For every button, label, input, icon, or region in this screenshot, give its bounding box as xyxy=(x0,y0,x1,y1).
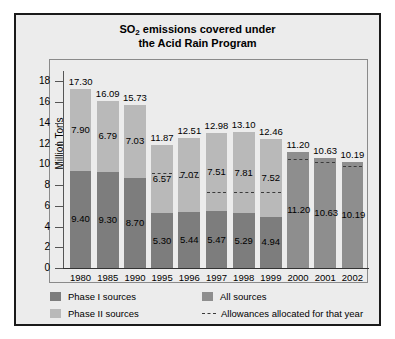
bar-total-label: 10.19 xyxy=(329,150,375,160)
y-axis-tick xyxy=(55,247,63,248)
bar-group[interactable]: 11.2011.20 xyxy=(287,71,309,268)
x-axis-tick-label: 1995 xyxy=(147,272,177,283)
bar-group[interactable]: 8.707.0315.73 xyxy=(124,71,146,268)
x-axis-tick-label: 1998 xyxy=(229,272,259,283)
bar-segment-value-label: 5.44 xyxy=(178,235,200,245)
y-axis-tick xyxy=(55,164,63,165)
bar-group[interactable]: 5.447.0712.51 xyxy=(178,71,200,268)
legend-label-phase-2-sources: Phase II sources xyxy=(68,308,139,319)
y-axis-tick-label: 18 xyxy=(20,76,50,86)
legend-swatch-all-sources xyxy=(202,292,213,301)
bar-segment-value-label: 9.40 xyxy=(70,214,92,224)
y-axis-tick xyxy=(55,185,63,186)
bar-group[interactable]: 9.407.9017.30 xyxy=(70,71,92,268)
legend-label-all-sources: All sources xyxy=(220,291,266,302)
bar-group[interactable]: 5.306.5711.87 xyxy=(151,71,173,268)
bar-segment-value-label: 9.30 xyxy=(97,215,119,225)
legend-item-phase-1-sources: Phase I sources xyxy=(50,291,136,302)
bar-segment-value-label: 7.52 xyxy=(260,173,282,183)
y-axis-tick xyxy=(55,227,63,228)
bar-segment-value-label: 10.63 xyxy=(314,208,336,218)
y-axis-tick-label: 10 xyxy=(20,159,50,169)
chart-title-subscript: 2 xyxy=(135,28,139,37)
bar-segment-value-label: 8.70 xyxy=(124,218,146,228)
x-axis-tick-label: 1996 xyxy=(174,272,204,283)
y-axis-tick-label: 12 xyxy=(20,139,50,149)
y-axis-tick xyxy=(55,206,63,207)
x-axis-tick-label: 1990 xyxy=(120,272,150,283)
x-axis-tick-label: 2000 xyxy=(283,272,313,283)
chart-title-line2: the Acid Rain Program xyxy=(138,37,256,49)
x-axis-tick-label: 1999 xyxy=(256,272,286,283)
bar-group[interactable]: 10.6310.63 xyxy=(314,71,336,268)
bar-segment-value-label: 6.79 xyxy=(97,131,119,141)
allowance-line xyxy=(261,192,281,193)
legend-item-all-sources: All sources xyxy=(202,291,266,302)
bar-segment-value-label: 5.30 xyxy=(151,236,173,246)
allowance-line xyxy=(343,166,363,167)
allowance-line xyxy=(234,192,254,193)
y-axis-tick xyxy=(55,123,63,124)
bar-group[interactable]: 5.477.5112.98 xyxy=(206,71,228,268)
x-axis-tick-label: 2002 xyxy=(337,272,367,283)
legend-dash-allowances xyxy=(202,313,216,314)
allowance-line xyxy=(288,159,308,160)
bar-group[interactable]: 4.947.5212.46 xyxy=(260,71,282,268)
chart-title: SO2 emissions covered under the Acid Rai… xyxy=(16,23,379,50)
allowance-line xyxy=(207,192,227,193)
y-axis-tick-label: 2 xyxy=(20,242,50,252)
allowance-line xyxy=(152,173,172,174)
y-axis-tick-label: 4 xyxy=(20,222,50,232)
bar-group[interactable]: 5.297.8113.10 xyxy=(233,71,255,268)
chart-legend: Phase I sources All sources Phase II sou… xyxy=(50,291,362,321)
x-axis-line xyxy=(63,268,369,269)
allowance-line xyxy=(179,177,199,178)
y-axis-tick-label: 8 xyxy=(20,180,50,190)
y-axis-tick xyxy=(55,144,63,145)
y-axis-line xyxy=(63,71,64,269)
y-axis-tick xyxy=(55,268,63,269)
y-axis-tick xyxy=(55,102,63,103)
allowance-line xyxy=(315,162,335,163)
y-axis-tick-label: 16 xyxy=(20,97,50,107)
x-axis-tick-label: 1985 xyxy=(93,272,123,283)
bar-segment-value-label: 10.19 xyxy=(342,210,364,220)
x-axis-tick-label: 1997 xyxy=(202,272,232,283)
x-axis-tick-label: 2001 xyxy=(310,272,340,283)
bar-segment-value-label: 7.90 xyxy=(70,125,92,135)
bar-segment-value-label: 11.20 xyxy=(287,205,309,215)
legend-label-allowances: Allowances allocated for that year xyxy=(221,308,363,319)
bar-segment-value-label: 6.57 xyxy=(151,174,173,184)
legend-item-phase-2-sources: Phase II sources xyxy=(50,308,139,319)
legend-swatch-phase-2-sources xyxy=(50,309,61,318)
bar-segment-value-label: 7.07 xyxy=(178,170,200,180)
legend-item-allowances: Allowances allocated for that year xyxy=(202,308,363,319)
y-axis-tick-label: 14 xyxy=(20,118,50,128)
bar-segment-value-label: 7.51 xyxy=(206,167,228,177)
bar-segment-value-label: 4.94 xyxy=(260,237,282,247)
legend-label-phase-1-sources: Phase I sources xyxy=(68,291,136,302)
chart-figure: SO2 emissions covered under the Acid Rai… xyxy=(14,13,381,326)
chart-title-line1: SO2 emissions covered under xyxy=(119,23,275,35)
legend-swatch-phase-1-sources xyxy=(50,292,61,301)
bar-group[interactable]: 10.1910.19 xyxy=(342,71,364,268)
bar-segment-value-label: 5.47 xyxy=(206,235,228,245)
bar-segment-value-label: 5.29 xyxy=(233,236,255,246)
y-axis-tick-label: 6 xyxy=(20,201,50,211)
y-axis-tick-label: 0 xyxy=(20,263,50,273)
bar-segment-value-label: 7.81 xyxy=(233,168,255,178)
x-axis-tick-label: 1980 xyxy=(66,272,96,283)
